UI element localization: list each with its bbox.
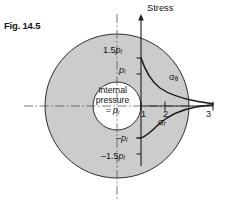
sigma-theta-subscript: θ — [175, 75, 179, 82]
stress-axis-label: Stress — [147, 4, 173, 14]
internal-pressure-line-3: = pi — [106, 105, 120, 115]
sigma-r-label: σr — [158, 118, 166, 128]
sigma-theta-label: σθ — [169, 73, 178, 83]
internal-pressure-line-2: pressure — [96, 95, 129, 105]
stress-axis-arrowhead — [138, 14, 144, 21]
y-label-p-sub: i — [124, 68, 125, 75]
sigma-r-subscript: r — [164, 120, 166, 127]
y-axis-label-1p5-pi: 1.5pi — [103, 46, 122, 56]
figure-container: Fig. 14.5 Stress 1.5pi — [0, 0, 234, 211]
internal-pressure-sub: i — [118, 109, 119, 116]
y-label-neg1p5-prefix: –1.5 — [101, 151, 119, 161]
internal-pressure-line-1: Internal — [98, 85, 127, 95]
y-label-neg1p5-sub: i — [124, 154, 125, 161]
internal-pressure-equals: = p — [106, 105, 118, 115]
y-axis-label-pi: pi — [119, 66, 125, 76]
x-axis-label-3: 3 — [206, 110, 211, 119]
y-label-negp-sub: i — [126, 136, 127, 143]
y-axis-label-negative-1p5-pi: –1.5pi — [101, 152, 125, 162]
y-label-1p5-sub: i — [121, 48, 122, 55]
y-axis-label-negative-pi: –pi — [116, 134, 127, 144]
y-label-1p5-prefix: 1.5 — [103, 45, 116, 55]
x-axis-label-1: 1 — [141, 110, 146, 119]
internal-pressure-annotation: Internal pressure = pi — [85, 85, 140, 116]
